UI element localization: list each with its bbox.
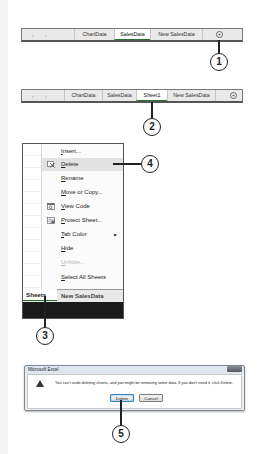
sheet-context-menu: Insert... Delete Rename Move or Copy... …	[41, 144, 124, 289]
tab-new-salesdata[interactable]: New SalesData	[167, 90, 215, 101]
menu-item-insert[interactable]: Insert...	[42, 145, 123, 158]
sheet-tab-bar-step2: ‹ › ChartData SalesData Sheet1 New Sales…	[21, 89, 243, 103]
tab-scroll-arrows[interactable]: ‹ ›	[32, 32, 52, 38]
menu-item-label: nsert...	[63, 148, 81, 154]
menu-item-label: ename	[65, 175, 83, 181]
dialog-body: You can't undo deleting sheets, and you …	[27, 374, 242, 409]
menu-item-rename[interactable]: Rename	[42, 172, 123, 185]
callout-line-4	[113, 163, 141, 165]
delete-button[interactable]: Delete	[110, 394, 134, 402]
new-sheet-plus-icon[interactable]: +	[230, 92, 237, 99]
tab-label: SalesData	[120, 31, 144, 37]
submenu-arrow-icon: ▶	[114, 228, 117, 241]
context-menu-screenshot: Insert... Delete Rename Move or Copy... …	[22, 143, 124, 319]
menu-item-label: ide	[65, 245, 73, 251]
sheet-tab-bar-step1: ‹ › ChartData SalesData New SalesData +	[21, 28, 243, 42]
callout-5: 5	[112, 425, 130, 443]
tab-separator	[202, 29, 203, 40]
callout-line-2	[151, 102, 153, 119]
dialog-message: You can't undo deleting sheets, and you …	[55, 380, 233, 385]
tab-scroll-arrows[interactable]: ‹ ›	[32, 93, 52, 99]
callout-line-5	[120, 400, 122, 426]
protect-sheet-icon	[47, 217, 55, 224]
menu-item-label: rotect Sheet...	[65, 217, 102, 223]
tab-chartdata[interactable]: ChartData	[74, 29, 114, 40]
menu-item-label: iew Code	[65, 203, 90, 209]
sheet-tabs-row: Sheets New SalesData	[23, 289, 123, 302]
tab-sheet1[interactable]: Sheet1	[136, 90, 167, 101]
cancel-button[interactable]: Cancel	[139, 394, 163, 402]
tab-salesdata[interactable]: SalesData	[114, 29, 150, 40]
menu-item-label: ove or Copy...	[66, 189, 103, 195]
callout-4: 4	[141, 155, 159, 173]
menu-item-tab-color[interactable]: Tab Color ▶	[42, 228, 123, 241]
view-code-icon	[47, 203, 55, 210]
callout-1: 1	[210, 53, 228, 71]
tab-label: New SalesData	[158, 31, 195, 37]
status-bar	[23, 302, 123, 319]
menu-item-move-or-copy[interactable]: Move or Copy...	[42, 186, 123, 199]
menu-item-label: ab Color	[64, 231, 87, 237]
tab-label: ChartData	[71, 92, 95, 98]
menu-item-select-all-sheets[interactable]: Select All Sheets	[42, 271, 123, 284]
tab-separator	[215, 90, 216, 101]
menu-item-delete[interactable]: Delete	[42, 158, 123, 171]
menu-item-unhide: Unhide...	[42, 256, 123, 269]
menu-item-label: nhide...	[65, 259, 85, 265]
delete-sheet-icon	[47, 161, 55, 168]
menu-item-protect-sheet[interactable]: Protect Sheet...	[42, 214, 123, 227]
menu-item-label: elete	[65, 161, 78, 167]
callout-line-3	[44, 296, 46, 327]
tab-chartdata[interactable]: ChartData	[64, 90, 102, 101]
tab-label: Sheet1	[144, 92, 161, 98]
close-button[interactable]	[227, 366, 242, 372]
tab-label: SalesData	[107, 92, 131, 98]
callout-line-1	[218, 40, 220, 54]
tab-label: New SalesData	[173, 92, 210, 98]
tab-salesdata[interactable]: SalesData	[102, 90, 136, 101]
warning-icon	[36, 380, 44, 387]
menu-item-hide[interactable]: Hide	[42, 242, 123, 255]
tab-new-salesdata[interactable]: New SalesData	[150, 29, 202, 40]
new-sheet-plus-icon[interactable]: +	[216, 31, 223, 38]
callout-2: 2	[143, 118, 161, 136]
callout-3: 3	[36, 327, 54, 345]
delete-confirmation-dialog: Microsoft Excel You can't undo deleting …	[24, 365, 245, 411]
menu-item-label: elect All Sheets	[65, 274, 106, 280]
dialog-title: Microsoft Excel	[28, 367, 59, 372]
page-margin	[0, 0, 8, 454]
menu-item-view-code[interactable]: View Code	[42, 200, 123, 213]
tab-new-salesdata[interactable]: New SalesData	[61, 290, 104, 302]
tab-label: ChartData	[82, 31, 106, 37]
tab-sheet1-right-clicked[interactable]: Sheets	[23, 289, 57, 301]
